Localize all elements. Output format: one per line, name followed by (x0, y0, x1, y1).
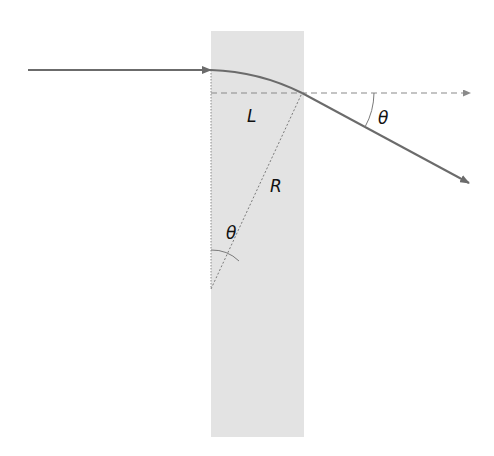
exit-angle-arc (365, 93, 374, 127)
label-angle-center: θ (226, 223, 237, 243)
label-length: L (247, 106, 256, 126)
deflection-diagram: L R θ θ (0, 0, 494, 456)
slab-region (211, 31, 304, 437)
label-radius: R (270, 176, 282, 196)
exit-ray (302, 93, 469, 183)
label-angle-exit: θ (378, 108, 389, 128)
